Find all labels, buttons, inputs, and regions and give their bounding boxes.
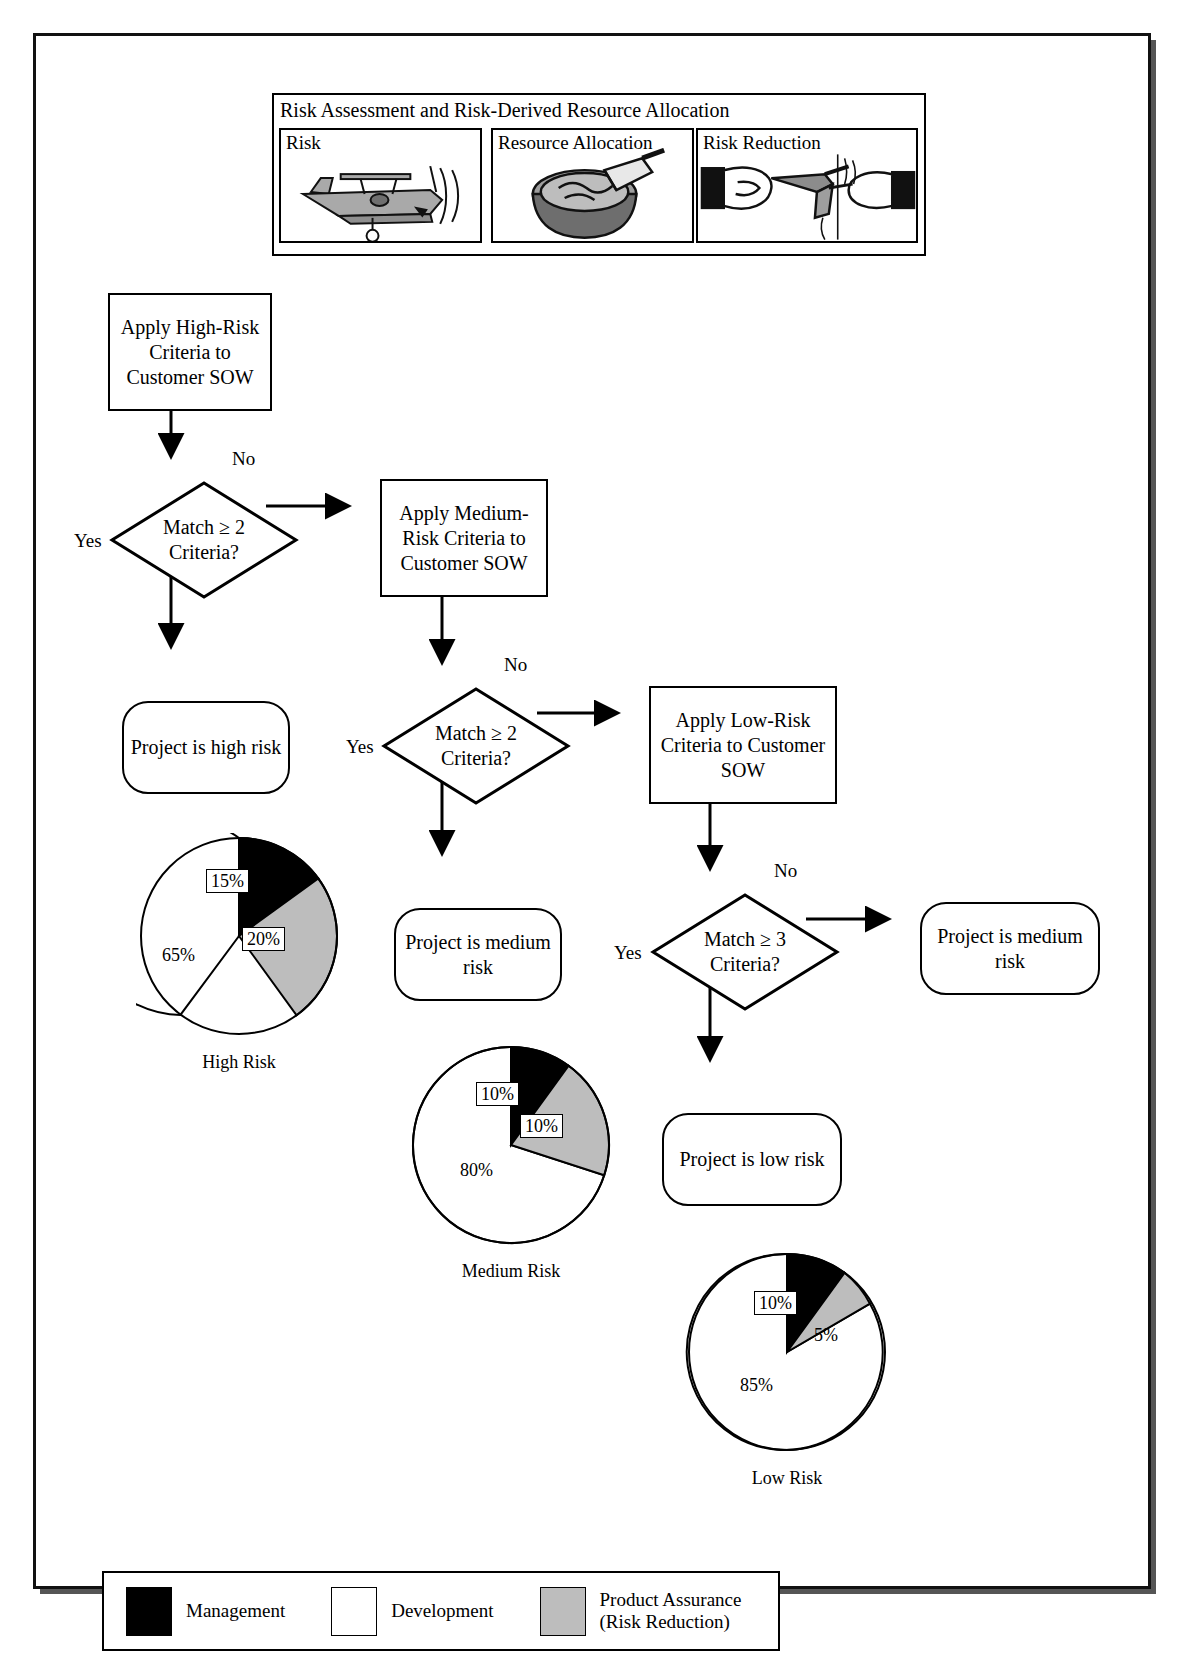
terminator-project-is-high-risk[interactable]: Project is high risk [122,701,290,794]
legend-label-product-assurance-line1: Product Assurance [600,1589,742,1611]
pie-low-label-development: 85% [740,1375,773,1395]
clipart-cell-risk: Risk [279,128,482,243]
pie-chart-high-risk-graphic [136,833,342,1039]
pie-medium-caption: Medium Risk [408,1260,614,1282]
terminator-high-label: Project is high risk [131,735,282,760]
pie-high-label-management: 15% [206,869,249,893]
decision-low-risk-match[interactable]: Match ≥ 3 Criteria? [650,892,840,1012]
terminator-medium-right-label: Project is medium risk [922,924,1098,974]
header-title: Risk Assessment and Risk-Derived Resourc… [280,96,920,124]
process-apply-low-risk-criteria[interactable]: Apply Low-Risk Criteria to Customer SOW [649,686,837,804]
pie-medium-label-development: 80% [460,1160,493,1180]
pie-chart-medium-risk: 10% 10% 80% Medium Risk [408,1042,614,1248]
diamond-shape [650,892,840,1012]
edge-label-yes-medium: Yes [346,736,374,758]
legend-label-development: Development [391,1600,493,1622]
pie-chart-high-risk: 15% 20% 65% High Risk [136,833,342,1039]
terminator-project-is-medium-risk[interactable]: Project is medium risk [394,908,562,1001]
flow-connectors [36,36,1154,1592]
clipart-cell-resource-allocation: Resource Allocation [491,128,694,243]
clipart-cell-risk-reduction: Risk Reduction [696,128,918,243]
terminator-medium-label: Project is medium risk [396,930,560,980]
pie-medium-label-product-assurance: 10% [520,1114,563,1138]
pie-chart-medium-risk-graphic [408,1042,614,1248]
process-apply-medium-risk-criteria-label: Apply Medium-Risk Criteria to Customer S… [382,501,546,576]
pie-low-label-product-assurance: 5% [814,1325,838,1345]
decision-medium-risk-match[interactable]: Match ≥ 2 Criteria? [381,686,571,806]
edge-label-no-low: No [774,860,797,882]
legend-label-product-assurance: Product Assurance (Risk Reduction) [600,1589,742,1633]
pie-high-caption: High Risk [136,1051,342,1073]
pie-high-label-product-assurance: 20% [242,927,285,951]
pie-chart-low-risk-graphic [684,1249,890,1455]
diamond-shape [109,480,299,600]
clipart-label-risk: Risk [286,131,321,154]
edge-label-no-medium: No [504,654,527,676]
clipart-label-risk-reduction: Risk Reduction [703,131,821,154]
terminator-project-is-low-risk[interactable]: Project is low risk [662,1113,842,1206]
pie-low-caption: Low Risk [684,1467,890,1489]
process-apply-high-risk-criteria[interactable]: Apply High-Risk Criteria to Customer SOW [108,293,272,411]
legend-item-product-assurance: Product Assurance (Risk Reduction) [540,1587,742,1636]
process-apply-medium-risk-criteria[interactable]: Apply Medium-Risk Criteria to Customer S… [380,479,548,597]
legend-swatch-product-assurance [540,1587,586,1636]
legend-swatch-development [331,1587,377,1636]
clipart-label-resource-allocation: Resource Allocation [498,131,653,154]
legend-label-management: Management [186,1600,285,1622]
edge-label-no-high: No [232,448,255,470]
edge-label-yes-low: Yes [614,942,642,964]
pie-medium-label-management: 10% [476,1082,519,1106]
pie-high-label-development: 65% [162,945,195,965]
diagram-page-frame: Risk Assessment and Risk-Derived Resourc… [33,33,1151,1589]
process-apply-low-risk-criteria-label: Apply Low-Risk Criteria to Customer SOW [651,708,835,783]
edge-label-yes-high: Yes [74,530,102,552]
biplane-airplane-icon [281,148,480,243]
terminator-project-is-medium-risk-right[interactable]: Project is medium risk [920,902,1100,995]
pie-chart-low-risk: 10% 5% 85% Low Risk [684,1249,890,1455]
legend-label-product-assurance-line2: (Risk Reduction) [600,1611,742,1633]
legend-swatch-management [126,1587,172,1636]
decision-high-risk-match[interactable]: Match ≥ 2 Criteria? [109,480,299,600]
legend: Management Development Product Assurance… [102,1571,780,1651]
diamond-shape [381,686,571,806]
legend-item-management: Management [126,1587,285,1636]
terminator-low-label: Project is low risk [680,1147,825,1172]
process-apply-high-risk-criteria-label: Apply High-Risk Criteria to Customer SOW [110,315,270,390]
pie-low-label-management: 10% [754,1291,797,1315]
hands-with-scissors-icon [698,148,916,243]
bowl-of-money-icon [493,148,692,243]
legend-item-development: Development [331,1587,493,1636]
